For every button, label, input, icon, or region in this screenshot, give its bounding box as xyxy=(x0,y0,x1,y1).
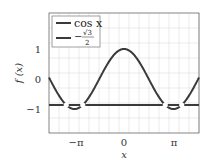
svg-text:−: − xyxy=(74,31,82,42)
xtick-negpi: −π xyxy=(69,137,84,148)
ytick-0: 0 xyxy=(35,74,41,85)
svg-text:2: 2 xyxy=(85,39,89,47)
ytick-neg1: −1 xyxy=(26,104,41,115)
legend: cos x − √3 2 xyxy=(52,16,103,47)
chart: cos x − √3 2 1 0 −1 −π 0 π x f (x) xyxy=(0,0,213,164)
x-axis-label: x xyxy=(121,149,127,160)
ytick-1: 1 xyxy=(35,44,41,55)
xtick-0: 0 xyxy=(121,137,127,148)
y-axis-label: f (x) xyxy=(13,63,24,84)
xtick-pi: π xyxy=(171,137,178,148)
svg-text:√3: √3 xyxy=(83,29,92,37)
